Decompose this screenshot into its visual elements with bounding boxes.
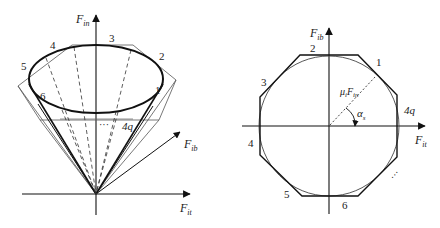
facet-label-5: 5 [284,188,290,200]
linearized-pyramid-top [18,45,176,120]
facet-label-4: 4 [248,137,254,149]
facet-label-4: 4 [50,39,56,51]
label-f-it: Fit [414,133,428,149]
facet-label-6: 6 [40,90,46,102]
ellipsis: ··· [99,119,109,130]
facet-label-6: 6 [342,199,348,211]
facet-label-4q: 4q [404,104,416,116]
label-mu-f-in: μiFin [339,86,359,99]
facet-label-3: 3 [261,76,267,88]
radius-line [330,77,375,125]
label-f-ib: Fib [183,137,198,153]
friction-cone-diagram: Fin Fib Fit 1 2 3 4 5 6 4q ··· Fib Fit μ… [0,0,440,228]
facet-label-5: 5 [21,60,27,72]
label-f-in: Fin [75,12,90,28]
right-friction-section: Fib Fit μiFin αs 1 2 3 4 5 6 4q ··· [242,26,428,214]
angle-arc [346,108,355,126]
facet-label-1: 1 [376,56,382,68]
facet-label-2: 2 [310,42,316,54]
left-friction-cone: Fin Fib Fit 1 2 3 4 5 6 4q ··· [18,12,198,217]
facet-label-4q: 4q [122,120,134,132]
label-f-it: Fit [179,201,193,217]
facet-label-2: 2 [159,50,165,62]
ellipsis: ··· [387,167,402,182]
label-alpha-s: αs [357,107,366,122]
facet-label-1: 1 [155,84,161,96]
facet-label-3: 3 [109,32,115,44]
label-f-ib: Fib [309,26,324,42]
